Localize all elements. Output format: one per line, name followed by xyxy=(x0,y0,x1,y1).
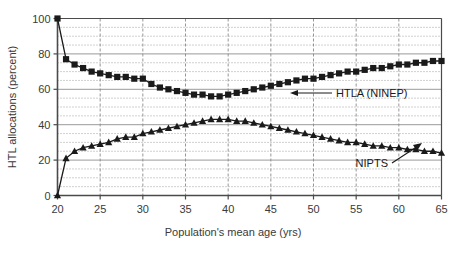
data-point-marker-square xyxy=(353,69,359,75)
tick-label-y-5: 100 xyxy=(32,13,50,25)
data-point-marker-square xyxy=(302,76,308,82)
data-point-marker-square xyxy=(285,79,291,85)
data-point-marker-square xyxy=(370,65,376,71)
data-point-marker-square xyxy=(71,61,77,67)
data-point-marker-square xyxy=(157,84,163,90)
data-point-marker-square xyxy=(174,88,180,94)
data-point-marker-square xyxy=(123,74,129,80)
data-point-marker-square xyxy=(165,86,171,92)
data-point-marker-square xyxy=(310,76,316,82)
data-point-marker-square xyxy=(54,15,60,21)
tick-label-x-7: 55 xyxy=(350,203,362,215)
data-point-marker-square xyxy=(80,65,86,71)
data-point-marker-square xyxy=(106,72,112,78)
tick-label-y-0: 0 xyxy=(44,190,50,202)
chart-figure: 02040608010020253035404550556065Populati… xyxy=(0,0,467,256)
x-axis-title: Population's mean age (yrs) xyxy=(165,226,302,238)
tick-label-x-6: 50 xyxy=(307,203,319,215)
data-point-marker-square xyxy=(396,61,402,67)
data-point-marker-square xyxy=(345,69,351,75)
data-point-marker-square xyxy=(140,76,146,82)
data-point-marker-square xyxy=(234,90,240,96)
data-point-marker-square xyxy=(327,72,333,78)
chart-canvas: 02040608010020253035404550556065Populati… xyxy=(0,0,467,256)
data-point-marker-square xyxy=(89,69,95,75)
data-point-marker-square xyxy=(336,70,342,76)
data-point-marker-square xyxy=(148,81,154,87)
data-point-marker-square xyxy=(379,65,385,71)
y-axis-title: HTL allocations (percent) xyxy=(6,46,18,168)
series-annotation-nipts: NIPTS xyxy=(356,157,388,169)
tick-label-x-3: 35 xyxy=(179,203,191,215)
tick-label-y-1: 20 xyxy=(38,154,50,166)
tick-label-x-2: 30 xyxy=(137,203,149,215)
data-point-marker-square xyxy=(268,83,274,89)
data-point-marker-square xyxy=(438,58,444,64)
data-point-marker-square xyxy=(430,58,436,64)
data-point-marker-square xyxy=(97,70,103,76)
data-point-marker-square xyxy=(63,56,69,62)
tick-label-x-1: 25 xyxy=(94,203,106,215)
tick-label-y-2: 40 xyxy=(38,119,50,131)
tick-label-x-4: 40 xyxy=(222,203,234,215)
data-point-marker-square xyxy=(276,81,282,87)
series-annotation-htla: HTLA (NINEP) xyxy=(336,87,408,99)
data-point-marker-square xyxy=(182,90,188,96)
data-point-marker-square xyxy=(421,60,427,66)
data-point-marker-square xyxy=(217,93,223,99)
tick-label-x-9: 65 xyxy=(435,203,447,215)
data-point-marker-square xyxy=(208,93,214,99)
data-point-marker-square xyxy=(131,76,137,82)
data-point-marker-square xyxy=(242,88,248,94)
data-point-marker-square xyxy=(387,63,393,69)
data-point-marker-square xyxy=(319,74,325,80)
data-point-marker-square xyxy=(404,61,410,67)
data-point-marker-square xyxy=(413,60,419,66)
data-point-marker-square xyxy=(293,77,299,83)
data-point-marker-square xyxy=(191,92,197,98)
data-point-marker-square xyxy=(199,92,205,98)
tick-label-y-4: 80 xyxy=(38,48,50,60)
tick-label-x-0: 20 xyxy=(51,203,63,215)
data-point-marker-square xyxy=(225,92,231,98)
data-point-marker-square xyxy=(251,86,257,92)
data-point-marker-square xyxy=(362,67,368,73)
tick-label-x-5: 45 xyxy=(265,203,277,215)
tick-label-y-3: 60 xyxy=(38,83,50,95)
tick-label-x-8: 60 xyxy=(393,203,405,215)
data-point-marker-square xyxy=(114,74,120,80)
data-point-marker-square xyxy=(259,84,265,90)
